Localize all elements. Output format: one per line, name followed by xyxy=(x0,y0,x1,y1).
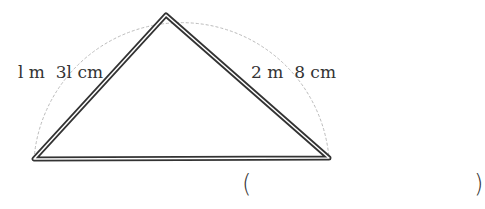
right-side-length-label: 2 m 8 cm xyxy=(251,62,336,82)
answer-close-paren: ) xyxy=(474,170,483,198)
dashed-arc xyxy=(34,23,329,159)
answer-open-paren: ( xyxy=(242,170,251,198)
answer-blank[interactable] xyxy=(258,172,468,200)
triangle-outline xyxy=(34,15,329,159)
triangle-inner-line xyxy=(34,15,329,159)
left-side-length-label: l m 3l cm xyxy=(18,62,103,82)
